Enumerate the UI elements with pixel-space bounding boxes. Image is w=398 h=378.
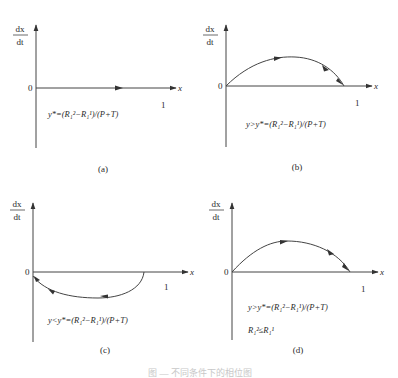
phase-curve bbox=[226, 57, 344, 86]
panel-label: (a) bbox=[98, 164, 108, 174]
origin-label: 0 bbox=[28, 83, 33, 93]
y-axis-label-num: dx bbox=[13, 199, 23, 209]
condition-formula: y>y*=(R₁²−R₁¹)/(P+T) bbox=[245, 119, 326, 129]
y-axis-label-den: dt bbox=[206, 37, 214, 47]
condition-inequality: R₁²≤R₁¹ bbox=[247, 325, 275, 335]
x-axis-label: x bbox=[379, 267, 384, 277]
condition-formula: y<y*=(R₁²−R₁¹)/(P+T) bbox=[47, 315, 128, 325]
y-axis-label-num: dx bbox=[206, 24, 216, 34]
panel-a: dx dt 0 x 1 y*=(R₁²−R₁¹)/(P+T) (a) bbox=[13, 24, 182, 174]
x-axis-label: x bbox=[189, 267, 194, 277]
x-tick-label-1: 1 bbox=[164, 282, 169, 292]
y-axis-label-den: dt bbox=[212, 212, 220, 222]
flow-arrow-icon bbox=[342, 263, 349, 271]
x-axis-label: x bbox=[177, 83, 182, 93]
origin-label: 0 bbox=[224, 267, 229, 277]
x-tick-label-1: 1 bbox=[161, 100, 166, 110]
panel-c: dx dt 0 x 1 y<y*=(R₁²−R₁¹)/(P+T) (c) bbox=[10, 199, 194, 355]
flow-arrow-icon bbox=[115, 86, 123, 91]
panel-label: (b) bbox=[292, 162, 303, 172]
panel-d: dx dt 0 x 1 y>y*=(R₁²−R₁¹)/(P+T) R₁²≤R₁¹… bbox=[209, 199, 384, 355]
x-tick-label-1: 1 bbox=[355, 98, 360, 108]
y-axis-label-num: dx bbox=[16, 24, 26, 34]
origin-label: 0 bbox=[218, 81, 223, 91]
origin-label: 0 bbox=[25, 267, 30, 277]
panel-label: (c) bbox=[100, 345, 110, 355]
equilibrium-formula: y*=(R₁²−R₁¹)/(P+T) bbox=[47, 109, 118, 119]
x-axis-label: x bbox=[373, 81, 378, 91]
phase-curve bbox=[232, 241, 350, 272]
panel-label: (d) bbox=[293, 345, 304, 355]
condition-formula: y>y*=(R₁²−R₁¹)/(P+T) bbox=[247, 302, 328, 312]
y-axis-label-den: dt bbox=[13, 212, 21, 222]
phase-curve bbox=[33, 272, 144, 298]
phase-diagram-figure: dx dt 0 x 1 y*=(R₁²−R₁¹)/(P+T) (a) dx dt… bbox=[0, 0, 398, 378]
y-axis-label-den: dt bbox=[16, 37, 24, 47]
x-tick-label-1: 1 bbox=[361, 284, 366, 294]
figure-caption: 图 — 不同条件下的相位图 bbox=[148, 367, 252, 378]
panel-b: dx dt 0 x 1 y>y*=(R₁²−R₁¹)/(P+T) (b) bbox=[203, 24, 378, 172]
y-axis-label-num: dx bbox=[212, 199, 222, 209]
